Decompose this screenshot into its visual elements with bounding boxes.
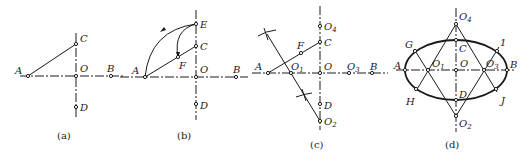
label-I: 1	[500, 37, 506, 48]
caption-b: (b)	[177, 130, 191, 141]
point-D	[318, 102, 321, 105]
label-O: O	[460, 58, 468, 69]
panel-d: A B O1 O O3 O4 O2 C D G H 1 J (d)	[393, 8, 517, 150]
point-E	[194, 22, 197, 25]
point-C	[74, 42, 77, 45]
label-G: G	[405, 39, 413, 50]
point-F	[299, 51, 302, 54]
point-C	[454, 38, 457, 41]
label-C: C	[459, 43, 467, 54]
panel-c: A O1 O O3 B C F O4 D O2 (c)	[252, 6, 388, 150]
arrow-icon	[160, 27, 166, 32]
point-G	[413, 49, 416, 52]
point-O2	[318, 119, 321, 122]
point-A	[26, 74, 29, 77]
label-H: H	[405, 96, 415, 107]
label-B: B	[509, 59, 517, 70]
label-O: O	[200, 64, 208, 75]
label-O1: O1	[432, 58, 445, 71]
arc-mark-upper	[258, 30, 276, 36]
point-A	[143, 75, 146, 78]
label-O: O	[324, 61, 332, 72]
label-E: E	[199, 19, 208, 30]
label-F: F	[178, 60, 187, 71]
label-O2: O2	[459, 118, 472, 131]
label-O4: O4	[324, 21, 337, 34]
point-D	[194, 102, 197, 105]
label-C: C	[200, 41, 208, 52]
point-I	[495, 49, 498, 52]
point-J	[494, 87, 497, 90]
point-F	[176, 55, 179, 58]
label-O1: O1	[291, 61, 304, 74]
point-A	[403, 68, 406, 71]
ellipse-construction-figure: A O B C D (a) A O B E C F D (b)	[0, 0, 529, 160]
label-A: A	[131, 65, 139, 76]
point-O	[318, 71, 321, 74]
label-B: B	[232, 64, 240, 75]
point-O	[74, 74, 77, 77]
label-J: J	[499, 95, 506, 106]
panel-b: A O B E C F D (b)	[120, 10, 248, 141]
panel-a: A O B C D (a)	[14, 33, 125, 141]
label-O3: O3	[486, 58, 499, 71]
label-D: D	[458, 89, 467, 100]
point-H	[414, 87, 417, 90]
label-A: A	[393, 60, 401, 71]
point-A	[266, 71, 269, 74]
caption-a: (a)	[57, 130, 71, 141]
point-B	[109, 74, 112, 77]
point-O	[194, 75, 197, 78]
point-O	[454, 68, 457, 71]
label-D: D	[79, 102, 88, 113]
point-O2	[454, 114, 457, 117]
point-D	[74, 105, 77, 108]
label-O2: O2	[324, 116, 337, 129]
label-D: D	[199, 100, 208, 111]
caption-d: (d)	[445, 139, 459, 150]
label-A: A	[254, 61, 262, 72]
label-A: A	[14, 65, 22, 76]
label-B: B	[369, 61, 377, 72]
caption-c: (c)	[310, 139, 324, 150]
point-B	[505, 68, 508, 71]
point-O1	[426, 68, 429, 71]
point-D	[454, 98, 457, 101]
label-B: B	[106, 63, 114, 74]
point-O4	[318, 24, 321, 27]
point-B	[234, 75, 237, 78]
label-C: C	[80, 33, 88, 44]
label-O: O	[80, 63, 88, 74]
label-D: D	[323, 100, 332, 111]
label-O4: O4	[459, 11, 472, 24]
line-AC	[28, 44, 76, 76]
point-C	[194, 44, 197, 47]
point-C	[318, 40, 321, 43]
label-F: F	[296, 40, 305, 51]
point-O4	[454, 22, 457, 25]
label-C: C	[324, 37, 332, 48]
